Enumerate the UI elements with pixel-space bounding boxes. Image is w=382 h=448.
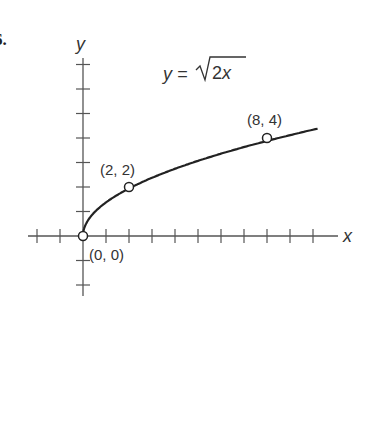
equation-lhs: y =	[161, 64, 188, 84]
point-labels: (0, 0)(2, 2)(8, 4)	[89, 111, 282, 263]
x-axis-label: x	[342, 226, 353, 246]
data-point	[263, 134, 272, 143]
axes	[28, 58, 338, 296]
point-label: (0, 0)	[89, 246, 124, 263]
data-point	[79, 232, 88, 241]
equation-radicand: 2x	[212, 63, 232, 83]
point-label: (2, 2)	[100, 161, 135, 178]
sqrt-curve	[83, 129, 318, 236]
data-points	[79, 134, 272, 241]
data-point	[125, 183, 134, 192]
graph: x y y = 2x (0, 0)(2, 2)(8, 4)	[0, 0, 382, 448]
point-label: (8, 4)	[247, 111, 282, 128]
equation-label: y = 2x	[161, 57, 246, 84]
y-axis-label: y	[74, 34, 86, 54]
